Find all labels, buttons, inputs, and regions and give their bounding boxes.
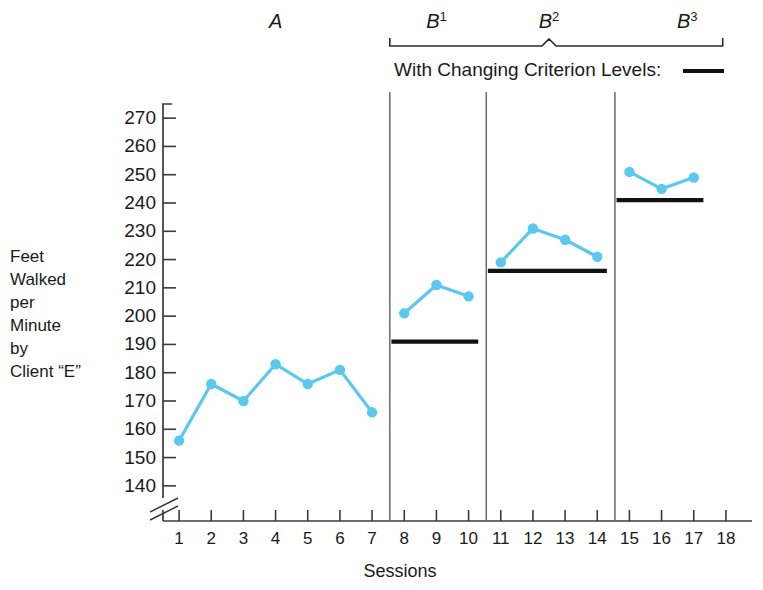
- y-axis-label-line-1: Feet: [10, 247, 44, 266]
- y-axis-label-line-5: by: [10, 339, 28, 358]
- y-tick-label-220: 220: [124, 249, 156, 270]
- y-axis-line: [163, 104, 172, 498]
- data-point-B2-s13[interactable]: [560, 235, 570, 245]
- changing-criterion-design-chart: Feet Walked per Minute by Client “E” 140…: [0, 0, 763, 590]
- x-tick-label-16: 16: [652, 529, 671, 548]
- data-point-B2-s12[interactable]: [528, 223, 538, 233]
- x-tick-label-13: 13: [556, 529, 575, 548]
- y-axis-label: Feet Walked per Minute by Client “E”: [10, 247, 81, 381]
- x-tick-label-15: 15: [620, 529, 639, 548]
- y-tick-label-170: 170: [124, 390, 156, 411]
- y-tick-label-210: 210: [124, 277, 156, 298]
- x-tick-label-5: 5: [303, 529, 312, 548]
- x-tick-label-4: 4: [271, 529, 280, 548]
- y-tick-label-230: 230: [124, 220, 156, 241]
- data-point-A-s2[interactable]: [206, 379, 216, 389]
- x-tick-label-8: 8: [400, 529, 409, 548]
- y-tick-label-260: 260: [124, 135, 156, 156]
- data-point-B1-s8[interactable]: [399, 308, 409, 318]
- x-tick-label-18: 18: [716, 529, 735, 548]
- treatment-phase-bracket: [390, 38, 723, 46]
- x-tick-label-14: 14: [588, 529, 607, 548]
- phase-label-B3: B3: [677, 9, 698, 32]
- criterion-note-text: With Changing Criterion Levels:: [394, 59, 661, 80]
- y-axis-label-line-6: Client “E”: [10, 362, 81, 381]
- y-axis-break-mark: [150, 498, 178, 512]
- x-tick-label-6: 6: [335, 529, 344, 548]
- phase-label-B1: B1: [426, 9, 447, 32]
- data-point-B3-s16[interactable]: [656, 184, 666, 194]
- data-line-B2: [501, 228, 598, 262]
- y-axis-break-mark-2: [150, 506, 178, 520]
- x-tick-label-11: 11: [492, 529, 510, 548]
- x-axis-title: Sessions: [363, 561, 436, 581]
- x-tick-label-2: 2: [207, 529, 216, 548]
- phase-label-A: A: [268, 10, 282, 32]
- data-line-A: [179, 364, 372, 440]
- y-tick-label-200: 200: [124, 305, 156, 326]
- phase-label-B2: B2: [539, 9, 560, 32]
- x-tick-label-10: 10: [459, 529, 478, 548]
- x-tick-label-12: 12: [523, 529, 542, 548]
- data-point-B1-s9[interactable]: [431, 280, 441, 290]
- x-tick-label-9: 9: [432, 529, 441, 548]
- data-point-B3-s17[interactable]: [689, 172, 699, 182]
- data-point-A-s7[interactable]: [367, 407, 377, 417]
- data-point-B3-s15[interactable]: [624, 167, 634, 177]
- y-axis-label-line-2: Walked: [10, 270, 66, 289]
- y-axis-label-line-3: per: [10, 293, 35, 312]
- y-tick-label-140: 140: [124, 475, 156, 496]
- y-tick-label-250: 250: [124, 164, 156, 185]
- y-axis-label-line-4: Minute: [10, 316, 61, 335]
- y-tick-label-190: 190: [124, 333, 156, 354]
- y-tick-label-240: 240: [124, 192, 156, 213]
- data-point-B2-s11[interactable]: [496, 257, 506, 267]
- x-tick-label-1: 1: [174, 529, 183, 548]
- data-point-A-s5[interactable]: [303, 379, 313, 389]
- chart-figure: Feet Walked per Minute by Client “E” 140…: [0, 0, 763, 590]
- x-tick-label-3: 3: [239, 529, 248, 548]
- data-point-A-s1[interactable]: [174, 435, 184, 445]
- data-point-A-s6[interactable]: [335, 365, 345, 375]
- data-point-A-s3[interactable]: [238, 396, 248, 406]
- data-point-A-s4[interactable]: [270, 359, 280, 369]
- y-tick-label-160: 160: [124, 418, 156, 439]
- data-point-B2-s14[interactable]: [592, 252, 602, 262]
- y-tick-label-180: 180: [124, 362, 156, 383]
- data-point-B1-s10[interactable]: [463, 291, 473, 301]
- x-tick-label-7: 7: [367, 529, 376, 548]
- y-tick-label-150: 150: [124, 447, 156, 468]
- plot-area: 1401501601701801902002102202302402502602…: [124, 9, 752, 548]
- x-tick-label-17: 17: [684, 529, 703, 548]
- criterion-note: With Changing Criterion Levels:: [394, 59, 724, 80]
- y-tick-label-270: 270: [124, 107, 156, 128]
